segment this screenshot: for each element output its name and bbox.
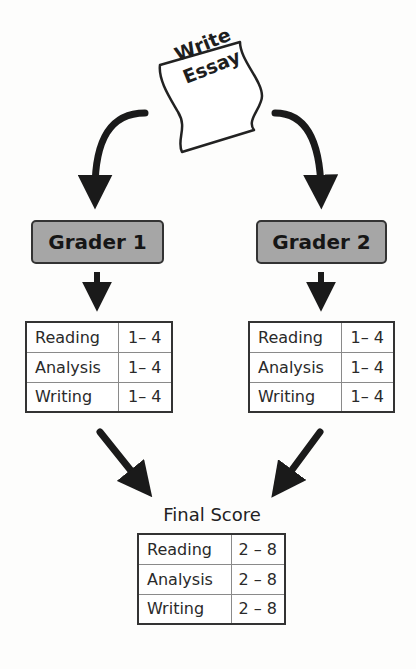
table-row: Writing 1– 4 [26,382,172,412]
grader-2-label: Grader 2 [272,230,370,254]
range-cell: 1– 4 [341,352,394,382]
criterion-cell: Writing [138,594,231,624]
table-row: Writing 2 – 8 [138,594,285,624]
grader-2-score-table: Reading 1– 4 Analysis 1– 4 Writing 1– 4 [248,321,395,413]
criterion-cell: Analysis [26,352,118,382]
range-cell: 1– 4 [341,322,394,352]
grader-2-box: Grader 2 [256,220,387,264]
grader-1-label: Grader 1 [48,230,146,254]
criterion-cell: Analysis [138,564,231,594]
range-cell: 1– 4 [341,382,394,412]
grader-1-box: Grader 1 [31,220,164,264]
range-cell: 2 – 8 [231,534,285,564]
range-cell: 2 – 8 [231,594,285,624]
range-cell: 1– 4 [118,322,172,352]
criterion-cell: Writing [249,382,341,412]
criterion-cell: Reading [26,322,118,352]
table-row: Analysis 1– 4 [249,352,394,382]
table-row: Writing 1– 4 [249,382,394,412]
criterion-cell: Reading [249,322,341,352]
curved-arrow-left-icon [95,113,145,190]
range-cell: 1– 4 [118,382,172,412]
final-score-table: Reading 2 – 8 Analysis 2 – 8 Writing 2 –… [137,533,286,625]
range-cell: 2 – 8 [231,564,285,594]
table-row: Analysis 2 – 8 [138,564,285,594]
table-row: Reading 1– 4 [249,322,394,352]
curved-arrow-right-icon [275,113,321,190]
final-score-title: Final Score [137,504,287,525]
criterion-cell: Reading [138,534,231,564]
diagonal-arrow-right-icon [283,432,320,482]
table-row: Reading 1– 4 [26,322,172,352]
criterion-cell: Analysis [249,352,341,382]
diagonal-arrow-left-icon [100,432,140,482]
grader-1-score-table: Reading 1– 4 Analysis 1– 4 Writing 1– 4 [25,321,173,413]
criterion-cell: Writing [26,382,118,412]
range-cell: 1– 4 [118,352,172,382]
table-row: Analysis 1– 4 [26,352,172,382]
table-row: Reading 2 – 8 [138,534,285,564]
